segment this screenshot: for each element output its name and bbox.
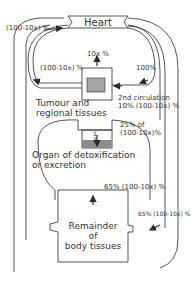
heart-label: Heart: [84, 17, 112, 28]
edge-label-remainder-in: 65% (100-10x) %: [138, 210, 190, 218]
remainder-label: Remainder of body tissues: [58, 221, 128, 251]
edge-label-organ-in: 25% of (100-10x)%: [120, 121, 161, 137]
edge-label-tumour-up: 10x %: [87, 50, 109, 58]
edge-label-heart-to-tumour: 100%: [136, 64, 156, 72]
edge-label-remainder-up: 65% (100-10x) %: [104, 183, 165, 191]
edge-label-outer-left: (100-10x) %: [6, 24, 49, 32]
organ-label: Organ of detoxification or excretion: [32, 150, 135, 170]
edge-label-second-circulation: 2nd circulation 10% (100-10x) %: [118, 94, 179, 110]
tumour-fill: [87, 78, 105, 92]
heart-node: Heart: [72, 17, 124, 28]
tumour-label: Tumour and regional tissues: [36, 98, 107, 118]
organ-fraction: 1 3: [93, 131, 97, 143]
edge-label-tumour-left: (100-10x) %: [40, 64, 83, 72]
